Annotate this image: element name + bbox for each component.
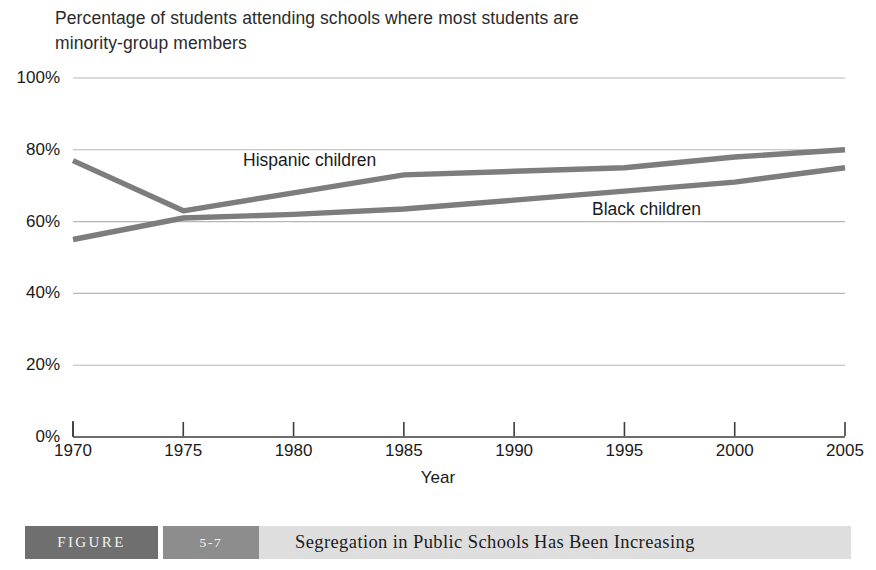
y-tick-label: 100% bbox=[0, 68, 60, 88]
caption-figure-number: 5-7 bbox=[163, 526, 259, 559]
x-tick-label: 2005 bbox=[813, 441, 876, 461]
x-tick-label: 2000 bbox=[703, 441, 767, 461]
plot-area: 0%20%40%60%80%100% 197019751980198519901… bbox=[0, 0, 876, 500]
y-tick-label: 80% bbox=[0, 140, 60, 160]
x-tick-label: 1970 bbox=[41, 441, 105, 461]
caption-figure-word: FIGURE bbox=[25, 526, 158, 559]
x-tick-label: 1990 bbox=[482, 441, 546, 461]
y-tick-label: 60% bbox=[0, 212, 60, 232]
series-label-black: Black children bbox=[592, 199, 701, 220]
x-tick-label: 1975 bbox=[151, 441, 215, 461]
axis-ticks bbox=[73, 422, 845, 436]
caption-title-text: Segregation in Public Schools Has Been I… bbox=[259, 526, 851, 559]
chart-svg bbox=[0, 0, 876, 500]
figure-container: Percentage of students attending schools… bbox=[0, 0, 876, 570]
y-tick-label: 40% bbox=[0, 283, 60, 303]
x-tick-label: 1985 bbox=[372, 441, 436, 461]
x-tick-label: 1980 bbox=[262, 441, 326, 461]
x-tick-label: 1995 bbox=[592, 441, 656, 461]
series-line-black bbox=[73, 168, 845, 240]
gridlines bbox=[73, 78, 845, 365]
data-series bbox=[73, 150, 845, 240]
series-label-hispanic: Hispanic children bbox=[243, 150, 376, 171]
x-axis-title: Year bbox=[0, 468, 876, 488]
figure-caption-bar: FIGURE 5-7 Segregation in Public Schools… bbox=[25, 526, 851, 559]
axis-lines bbox=[73, 421, 845, 437]
y-tick-label: 20% bbox=[0, 355, 60, 375]
